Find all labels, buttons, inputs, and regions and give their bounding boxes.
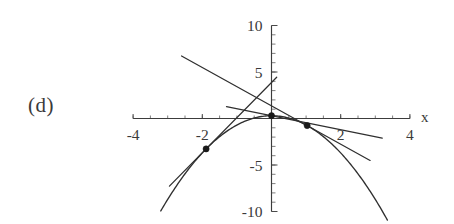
x-axis-label: x xyxy=(421,109,429,125)
y-tick-label: 10 xyxy=(247,17,263,34)
marked-point-2 xyxy=(304,122,310,128)
x-tick-label: -4 xyxy=(127,126,140,143)
marked-point-1 xyxy=(268,113,274,119)
x-axis-tick-labels: -4-224 xyxy=(127,126,414,143)
x-tick-label: 4 xyxy=(406,126,414,143)
x-tick-label: 2 xyxy=(337,126,345,143)
figure-panel: (d) -4-224 -10-5510 x xyxy=(0,0,454,224)
y-tick-label: 5 xyxy=(255,64,263,81)
y-tick-label: -10 xyxy=(242,203,263,220)
curve-parabola xyxy=(161,116,388,220)
y-tick-label: -5 xyxy=(250,157,263,174)
line-tangent-vertex xyxy=(227,107,383,138)
plot-canvas: -4-224 -10-5510 x xyxy=(0,0,454,224)
plot-series xyxy=(161,56,388,220)
x-tick-label: -2 xyxy=(196,126,209,143)
marked-point-0 xyxy=(203,146,209,152)
